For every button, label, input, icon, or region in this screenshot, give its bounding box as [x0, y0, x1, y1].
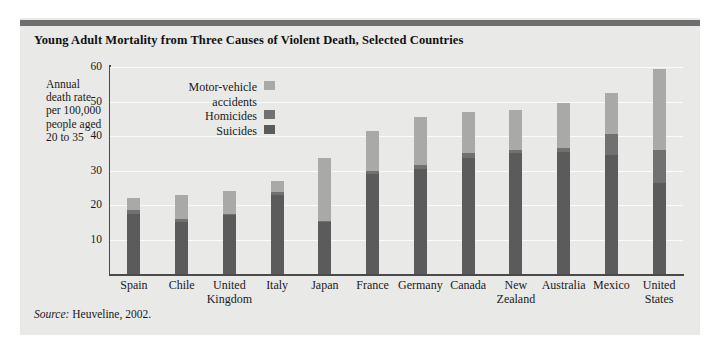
gridline-10: [110, 240, 683, 241]
bar-segment-motor-vehicle-accidents: [127, 198, 140, 210]
bar-segment-homicides: [271, 192, 284, 195]
bar-new-zealand: [509, 67, 522, 274]
bar-segment-suicides: [462, 158, 475, 274]
top-rule: [20, 20, 700, 26]
bar-segment-suicides: [318, 222, 331, 274]
bar-australia: [557, 67, 570, 274]
gridline-60: [110, 67, 683, 68]
legend: Motor-vehicleaccidentsHomicidesSuicides: [155, 80, 275, 138]
bar-segment-motor-vehicle-accidents: [271, 181, 284, 192]
legend-item-motor-vehicle: Motor-vehicle: [155, 80, 275, 95]
bar-segment-homicides: [509, 150, 522, 153]
bar-segment-motor-vehicle-accidents: [175, 195, 188, 219]
legend-item-suicides: Suicides: [155, 124, 275, 139]
y-tick-label-20: 20: [68, 199, 102, 211]
gridline-30: [110, 171, 683, 172]
bar-segment-motor-vehicle-accidents: [318, 158, 331, 221]
legend-swatch-icon: [264, 81, 275, 90]
bar-segment-suicides: [557, 152, 570, 274]
bar-segment-suicides: [509, 153, 522, 274]
gridline-20: [110, 205, 683, 206]
x-tick-label-line: Kingdom: [191, 292, 267, 306]
source-text: Heuveline, 2002.: [72, 308, 151, 320]
y-tick-label-40: 40: [68, 130, 102, 142]
bar-france: [366, 67, 379, 274]
x-axis-line: [109, 274, 684, 276]
bar-united-states: [653, 67, 666, 274]
x-tick-label-line: States: [621, 292, 697, 306]
legend-label: Motor-vehicle: [189, 80, 257, 94]
bar-segment-suicides: [414, 169, 427, 274]
bar-segment-homicides: [605, 134, 618, 155]
y-tick-label-60: 60: [68, 61, 102, 73]
bar-segment-motor-vehicle-accidents: [462, 112, 475, 153]
x-tick-label-united-states: UnitedStates: [621, 278, 697, 306]
legend-item-continuation: accidents: [155, 95, 275, 110]
bar-segment-homicides: [223, 214, 236, 216]
bar-canada: [462, 67, 475, 274]
bar-segment-motor-vehicle-accidents: [223, 191, 236, 213]
bar-segment-motor-vehicle-accidents: [366, 131, 379, 171]
y-tick-label-30: 30: [68, 165, 102, 177]
figure-panel: Young Adult Mortality from Three Causes …: [20, 18, 700, 335]
bar-segment-suicides: [175, 222, 188, 274]
bar-segment-suicides: [366, 174, 379, 274]
bar-segment-homicides: [462, 153, 475, 158]
y-tick-label-50: 50: [68, 96, 102, 108]
bar-segment-motor-vehicle-accidents: [653, 69, 666, 150]
legend-item-homicides: Homicides: [155, 109, 275, 124]
bar-segment-homicides: [175, 219, 188, 222]
bar-segment-homicides: [557, 148, 570, 151]
x-tick-label-line: United: [621, 278, 697, 292]
bar-segment-motor-vehicle-accidents: [557, 103, 570, 148]
bar-segment-homicides: [414, 165, 427, 168]
y-tick-label-10: 10: [68, 234, 102, 246]
bar-spain: [127, 67, 140, 274]
bar-segment-suicides: [127, 214, 140, 274]
bar-segment-homicides: [318, 221, 331, 222]
bar-segment-homicides: [653, 150, 666, 183]
bar-segment-homicides: [366, 171, 379, 174]
bar-segment-motor-vehicle-accidents: [414, 117, 427, 165]
bar-segment-motor-vehicle-accidents: [605, 93, 618, 134]
bar-segment-motor-vehicle-accidents: [509, 110, 522, 150]
bar-segment-suicides: [653, 183, 666, 274]
x-tick-label-line: Zealand: [478, 292, 554, 306]
legend-label-continued: accidents: [155, 95, 275, 110]
bar-mexico: [605, 67, 618, 274]
legend-swatch-icon: [264, 110, 275, 119]
y-axis-ticks: 102030405060: [68, 18, 102, 318]
bar-segment-suicides: [605, 155, 618, 274]
bar-segment-suicides: [271, 195, 284, 274]
bar-japan: [318, 67, 331, 274]
legend-label: Suicides: [216, 124, 257, 138]
x-axis-labels: SpainChileUnitedKingdomItalyJapanFranceG…: [110, 278, 683, 318]
bar-segment-suicides: [223, 215, 236, 274]
source-label: Source:: [34, 308, 69, 320]
legend-label: Homicides: [205, 109, 257, 123]
legend-swatch-icon: [264, 125, 275, 134]
bar-germany: [414, 67, 427, 274]
bar-segment-homicides: [127, 210, 140, 213]
source-note: Source: Heuveline, 2002.: [34, 308, 151, 320]
